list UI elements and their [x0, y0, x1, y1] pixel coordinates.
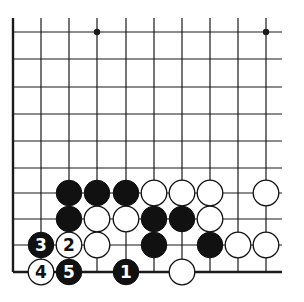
black-stone: 5	[56, 259, 82, 285]
star-point	[263, 29, 269, 35]
white-stone	[84, 206, 110, 232]
white-stone	[169, 259, 195, 285]
white-stone	[253, 232, 279, 258]
black-stone	[169, 206, 195, 232]
black-stone: 1	[113, 259, 139, 285]
white-stone	[197, 206, 223, 232]
move-number: 4	[35, 262, 47, 282]
black-stone	[197, 232, 223, 258]
black-stone	[84, 180, 110, 206]
move-number: 1	[120, 262, 132, 282]
white-stone: 2	[56, 232, 82, 258]
white-stone	[84, 232, 110, 258]
black-stone: 3	[28, 232, 54, 258]
move-number: 5	[63, 262, 75, 282]
white-stone	[113, 206, 139, 232]
white-stone	[169, 180, 195, 206]
black-stone	[113, 180, 139, 206]
black-stone	[141, 232, 167, 258]
black-stone	[56, 206, 82, 232]
go-board: 32451	[0, 0, 304, 302]
black-stone	[56, 180, 82, 206]
black-stone	[141, 206, 167, 232]
white-stone	[197, 180, 223, 206]
white-stone	[141, 180, 167, 206]
white-stone	[225, 232, 251, 258]
star-point	[94, 29, 100, 35]
white-stone: 4	[28, 259, 54, 285]
white-stone	[253, 180, 279, 206]
move-number: 3	[35, 235, 47, 255]
move-number: 2	[63, 235, 75, 255]
